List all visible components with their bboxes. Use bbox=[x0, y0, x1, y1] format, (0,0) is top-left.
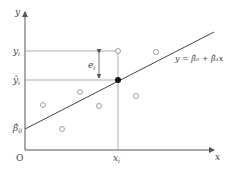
data-point bbox=[97, 104, 102, 109]
data-point bbox=[134, 94, 139, 99]
fitted-point bbox=[115, 77, 121, 83]
data-point bbox=[78, 90, 83, 95]
yhat-label: ŷi bbox=[12, 75, 20, 86]
origin-label: O bbox=[16, 153, 23, 163]
data-points bbox=[41, 49, 159, 132]
x-axis-label: x bbox=[215, 152, 220, 162]
data-point bbox=[41, 103, 46, 108]
y-axis-label: y bbox=[14, 7, 21, 17]
beta0-label: β̂0 bbox=[12, 123, 22, 134]
residual-label: ei bbox=[88, 60, 95, 71]
xi-label: xi bbox=[113, 153, 120, 164]
data-point bbox=[60, 127, 65, 132]
regression-equation: y = β̂₀ + β̂₁x bbox=[174, 54, 224, 63]
data-point-yi bbox=[116, 49, 121, 54]
data-point bbox=[154, 50, 159, 55]
regression-diagram: y x O yi ŷi β̂0 xi ei y = β̂₀ + β̂₁x bbox=[0, 0, 231, 171]
yi-label: yi bbox=[12, 46, 20, 57]
